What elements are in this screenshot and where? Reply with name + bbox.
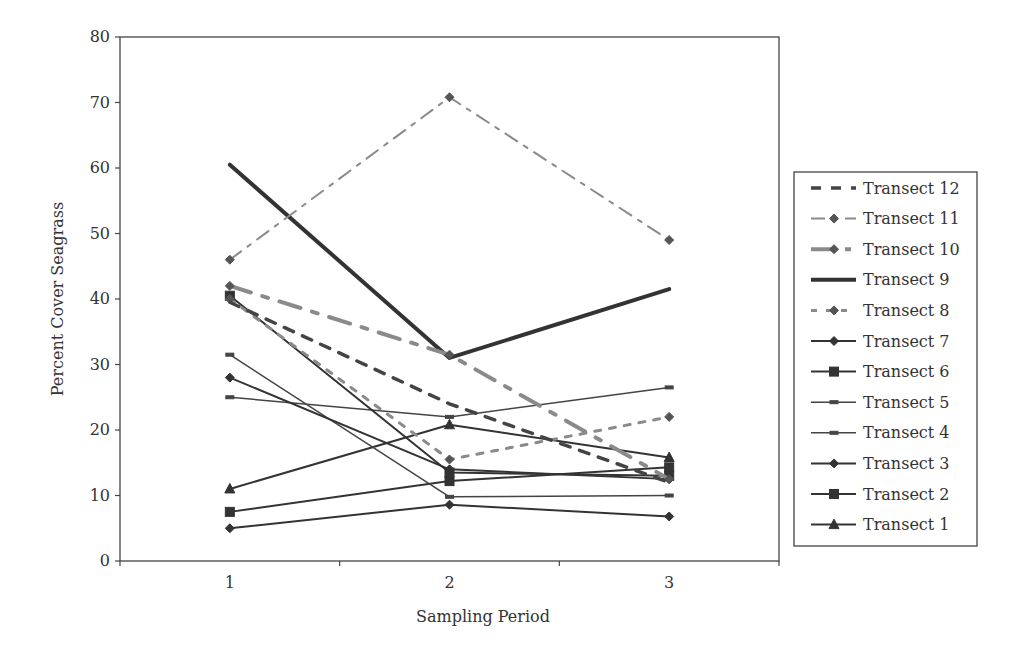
legend-label: Transect 6	[863, 362, 950, 381]
x-tick-label: 2	[444, 573, 454, 592]
x-tick-label: 3	[664, 573, 674, 592]
series-line	[230, 165, 669, 358]
legend-square-marker-icon	[830, 367, 839, 376]
dash-marker-icon	[226, 353, 234, 356]
y-tick-label: 30	[90, 355, 110, 374]
y-tick-label: 0	[100, 551, 110, 570]
dash-marker-icon	[446, 495, 454, 498]
legend-label: Transect 5	[863, 393, 950, 412]
legend-label: Transect 9	[863, 270, 950, 289]
x-axis-title: Sampling Period	[416, 607, 550, 626]
series-line	[230, 97, 669, 259]
y-tick-label: 10	[90, 486, 110, 505]
series-transect-6	[225, 291, 673, 480]
series-transect-10	[225, 281, 673, 483]
legend: Transect 12Transect 11Transect 10Transec…	[794, 172, 977, 546]
square-marker-icon	[225, 507, 234, 516]
series-transect-3	[225, 500, 673, 533]
y-tick-label: 70	[90, 93, 110, 112]
diamond-marker-icon	[445, 500, 454, 509]
y-axis-title: Percent Cover Seagrass	[48, 202, 67, 396]
y-tick-label: 60	[90, 158, 110, 177]
dash-marker-icon	[446, 415, 454, 418]
legend-label: Transect 2	[863, 485, 950, 504]
dash-marker-icon	[665, 386, 673, 389]
diamond-marker-icon	[445, 455, 454, 464]
diamond-marker-icon	[225, 373, 234, 382]
y-tick-label: 80	[90, 27, 110, 46]
diamond-marker-icon	[225, 281, 234, 290]
line-chart: 01020304050607080 123 Sampling Period Pe…	[0, 0, 1023, 651]
series-line	[230, 299, 669, 459]
y-tick-label: 50	[90, 224, 110, 243]
y-tick-label: 20	[90, 420, 110, 439]
y-axis: 01020304050607080	[90, 27, 120, 570]
x-tick-label: 1	[225, 573, 235, 592]
square-marker-icon	[445, 477, 454, 486]
legend-label: Transect 11	[863, 209, 960, 228]
legend-label: Transect 8	[863, 301, 950, 320]
legend-label: Transect 1	[863, 515, 950, 534]
legend-label: Transect 12	[863, 179, 960, 198]
diamond-marker-icon	[665, 236, 674, 245]
diamond-marker-icon	[665, 412, 674, 421]
diamond-marker-icon	[665, 512, 674, 521]
dash-marker-icon	[665, 494, 673, 497]
legend-dash-marker-icon	[830, 431, 838, 434]
series-layer	[225, 93, 674, 533]
square-marker-icon	[665, 463, 674, 472]
legend-label: Transect 10	[863, 240, 960, 259]
y-tick-label: 40	[90, 289, 110, 308]
dash-marker-icon	[226, 396, 234, 399]
series-transect-8	[225, 295, 673, 464]
x-axis: 123	[120, 561, 779, 592]
diamond-marker-icon	[225, 524, 234, 533]
legend-label: Transect 7	[863, 332, 950, 351]
legend-label: Transect 4	[863, 423, 950, 442]
series-transect-11	[225, 93, 673, 264]
legend-square-marker-icon	[830, 490, 839, 499]
legend-dash-marker-icon	[830, 401, 838, 404]
triangle-marker-icon	[445, 419, 455, 429]
legend-label: Transect 3	[863, 454, 950, 473]
series-line	[230, 296, 669, 476]
series-line	[230, 286, 669, 479]
series-transect-9	[230, 165, 669, 358]
